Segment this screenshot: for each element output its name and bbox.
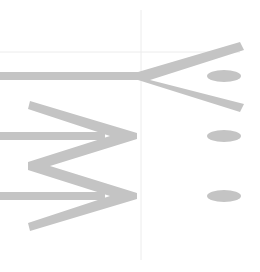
shaft-middle <box>0 132 105 140</box>
ellipse-node-2 <box>207 190 241 202</box>
shaft-top <box>0 72 141 80</box>
shaft-bottom <box>0 192 105 200</box>
ellipse-node-0 <box>207 70 241 82</box>
ellipse-node-1 <box>207 130 241 142</box>
diagram-canvas <box>0 0 260 272</box>
